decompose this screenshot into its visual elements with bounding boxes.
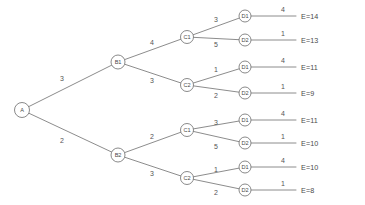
tree-edge [193, 179, 239, 188]
tree-edge [29, 113, 112, 152]
tree-node-d2d[interactable]: D2 [239, 184, 251, 196]
tree-node-d2b[interactable]: D2 [239, 87, 251, 99]
tree-node-c2b[interactable]: C2 [181, 172, 194, 185]
payoff-label: E=10 [301, 139, 318, 148]
tree-node-c1b[interactable]: C1 [181, 124, 194, 137]
node-label: D1 [242, 164, 249, 170]
edge-weight-label: 3 [214, 16, 218, 23]
terminal-weight-label: 4 [281, 157, 285, 164]
payoff-label: E=11 [301, 63, 318, 72]
edge-weight-label: 3 [150, 77, 154, 84]
edge-weight-label: 5 [214, 143, 218, 150]
edge-weight-label: 3 [60, 75, 64, 82]
node-label: C2 [184, 82, 191, 88]
node-label: D2 [242, 140, 249, 146]
node-label: B1 [115, 59, 122, 65]
edges-layer [29, 18, 240, 189]
payoff-label: E=9 [301, 89, 314, 98]
node-label: D1 [242, 13, 249, 19]
decision-tree-diagram: AB1B2C1C2C1C2D1D2D1D2D1D2D1D2 3243233512… [0, 0, 365, 205]
terminal-weight-label: 4 [281, 57, 285, 64]
edge-weight-label: 2 [150, 133, 154, 140]
terminal-weight-label: 1 [281, 180, 285, 187]
tree-node-d1b[interactable]: D1 [239, 61, 251, 73]
edge-weight-label: 5 [214, 41, 218, 48]
edge-weight-label: 1 [214, 166, 218, 173]
tree-node-b2[interactable]: B2 [111, 148, 125, 162]
tree-edge [193, 131, 239, 141]
edge-weight-label: 2 [60, 137, 64, 144]
node-label: D2 [242, 37, 249, 43]
tree-node-d1d[interactable]: D1 [239, 161, 251, 173]
edge-weight-label: 2 [214, 92, 218, 99]
edge-weight-label: 4 [150, 39, 154, 46]
tree-node-d1a[interactable]: D1 [239, 10, 251, 22]
tree-node-d1c[interactable]: D1 [239, 114, 251, 126]
node-label: D1 [242, 64, 249, 70]
tree-node-d2c[interactable]: D2 [239, 137, 251, 149]
node-label: C1 [184, 34, 191, 40]
terminal-weight-label: 4 [281, 6, 285, 13]
payoff-label: E=10 [301, 163, 318, 172]
tree-node-a[interactable]: A [15, 103, 30, 118]
tree-node-b1[interactable]: B1 [111, 55, 125, 69]
node-label: A [20, 107, 24, 113]
node-label: D1 [242, 117, 249, 123]
node-label: C2 [184, 175, 191, 181]
tree-node-c1a[interactable]: C1 [181, 31, 194, 44]
terminal-weight-label: 4 [281, 110, 285, 117]
node-label: B2 [115, 152, 122, 158]
node-label: C1 [184, 127, 191, 133]
tree-edge [193, 37, 239, 39]
payoff-label: E=11 [301, 116, 318, 125]
terminal-lines-layer [251, 16, 296, 190]
node-label: D2 [242, 187, 249, 193]
edge-weight-label: 2 [214, 189, 218, 196]
terminal-weight-label: 1 [281, 133, 285, 140]
payoff-label: E=8 [301, 186, 314, 195]
terminal-weight-label: 1 [281, 30, 285, 37]
edge-weight-label: 1 [214, 66, 218, 73]
payoff-label: E=14 [301, 12, 318, 21]
tree-node-d2a[interactable]: D2 [239, 34, 251, 46]
tree-node-c2a[interactable]: C2 [181, 79, 194, 92]
payoff-labels-layer: E=14E=13E=11E=9E=11E=10E=10E=8 [301, 12, 318, 195]
tree-edge [29, 65, 112, 107]
payoff-label: E=13 [301, 36, 318, 45]
edge-weight-label: 3 [150, 170, 154, 177]
edge-weight-label: 3 [214, 119, 218, 126]
node-label: D2 [242, 90, 249, 96]
terminal-weight-label: 1 [281, 83, 285, 90]
